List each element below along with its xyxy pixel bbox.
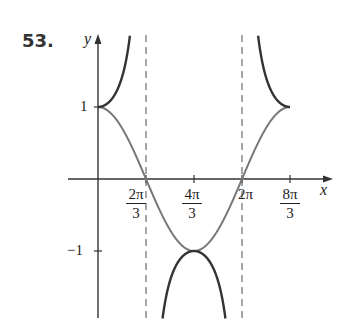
y-axis-label: y xyxy=(84,30,91,48)
x-tick-2pi-3: 2π3 xyxy=(126,186,146,221)
y-axis-arrow-icon xyxy=(95,34,102,44)
y-tick-neg1: −1 xyxy=(67,242,83,259)
x-axis-label: x xyxy=(320,181,327,199)
problem-number: 53. xyxy=(22,30,54,51)
y-tick-1: 1 xyxy=(80,98,88,115)
x-tick-8pi-3: 8π3 xyxy=(280,186,300,221)
x-tick-2pi: 2π xyxy=(238,186,253,203)
x-tick-4pi-3: 4π3 xyxy=(182,186,202,221)
